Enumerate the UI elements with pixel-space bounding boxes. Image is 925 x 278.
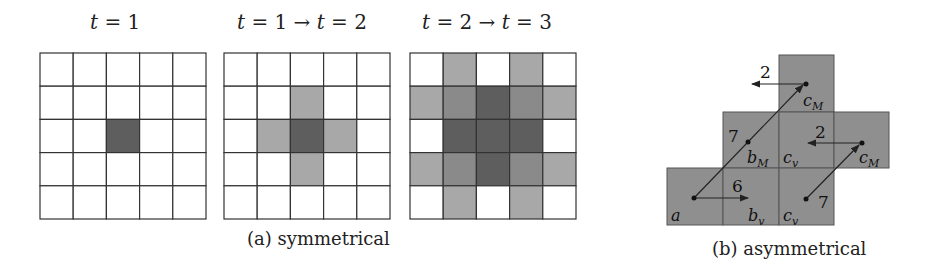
node-cM-right xyxy=(860,141,865,146)
asymmetrical-diagram: 2 7 2 6 7 a bv bM cv cv cM cM xyxy=(0,0,925,278)
caption-asymmetrical: (b) asymmetrical xyxy=(712,238,866,259)
weight-6: 6 xyxy=(732,176,743,196)
node-cv-bot xyxy=(804,197,809,202)
weight-2-top: 2 xyxy=(760,62,771,82)
node-bM xyxy=(746,140,751,145)
node-cM-top xyxy=(804,82,809,87)
caption-symmetrical: (a) symmetrical xyxy=(247,228,390,249)
weight-7-bottom: 7 xyxy=(818,192,829,212)
label-a: a xyxy=(671,206,681,225)
node-a xyxy=(692,196,697,201)
weight-7: 7 xyxy=(728,126,739,146)
weight-2-right: 2 xyxy=(815,122,826,142)
